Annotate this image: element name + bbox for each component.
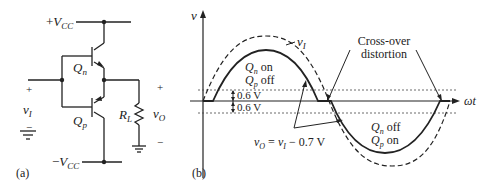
rl-label: RL xyxy=(118,107,132,124)
junction-dots xyxy=(60,20,106,164)
vi-plus: + xyxy=(26,83,32,95)
qp-off-label: Qp off xyxy=(245,73,274,89)
qp-emitter-arrow-icon xyxy=(95,96,102,101)
panel-b-waveform xyxy=(190,10,460,178)
crossover-label-1: Cross-over xyxy=(358,34,411,48)
vi-label: vI xyxy=(23,102,33,119)
threshold-up-label: 0.6 V xyxy=(237,89,261,101)
equation-label: vO = vI − 0.7 V xyxy=(254,135,325,151)
x-axis-label: ωt xyxy=(464,94,476,108)
panel-a-circuit xyxy=(20,22,146,162)
crossover-label-2: distortion xyxy=(361,47,407,61)
vi-minus: − xyxy=(26,121,32,133)
qp-on-label: Qp on xyxy=(371,133,399,149)
x-axis-arrow-icon xyxy=(452,98,460,104)
panel-a-label: (a) xyxy=(16,166,29,180)
vo-plus: + xyxy=(157,81,163,93)
vcc-neg-label: −VCC xyxy=(52,154,80,171)
y-axis-label: v xyxy=(191,8,197,23)
qn-label: Qn xyxy=(73,60,87,77)
threshold-down-label: 0.6 V xyxy=(237,101,261,113)
vo-minus: − xyxy=(157,136,163,148)
vo-label: vO xyxy=(153,106,166,123)
vcc-pos-label: +VCC xyxy=(46,14,74,31)
complementary-push-pull-figure: +VCC −VCC Qn Qp RL + vI − + vO − (a) xyxy=(0,0,493,189)
vi-curve-label: vI xyxy=(297,34,307,51)
panel-b-label: (b) xyxy=(192,166,206,180)
y-axis-arrow-icon xyxy=(200,10,206,18)
qp-label: Qp xyxy=(73,113,87,130)
